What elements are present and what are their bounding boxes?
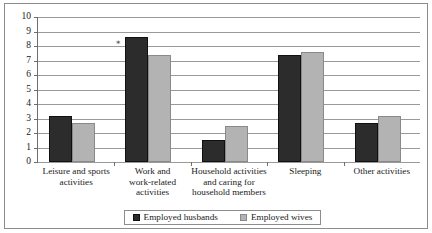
y-tick-label: 8	[26, 41, 31, 51]
legend-entry[interactable]: Employed husbands	[133, 213, 218, 222]
bar-wives	[148, 55, 171, 162]
y-tick-label: 7	[26, 56, 31, 66]
chart-figure: 012345678910 ∗ Leisure and sportsactivit…	[0, 0, 432, 233]
y-tick-label: 9	[26, 27, 31, 37]
bars-group	[38, 17, 420, 162]
category-label: Work andwork-relatedactivities	[108, 166, 196, 198]
category-label-line: Leisure and sports	[32, 166, 120, 177]
bar-wives	[225, 126, 248, 162]
bar-husbands	[202, 140, 225, 162]
y-tick-label: 4	[26, 99, 31, 109]
y-tick-mark	[34, 162, 38, 163]
category-label: Sleeping	[261, 166, 349, 177]
category-label-line: work-related	[108, 177, 196, 188]
bar-wives	[301, 52, 324, 162]
legend-entry[interactable]: Employed wives	[240, 213, 313, 222]
legend-label: Employed husbands	[144, 213, 218, 222]
bar-husbands	[278, 55, 301, 162]
category-label: Household activitiesand caring forhouseh…	[185, 166, 273, 198]
gridline	[38, 162, 420, 163]
category-label: Other activities	[338, 166, 426, 177]
category-label: Leisure and sportsactivities	[32, 166, 120, 187]
bar-group	[114, 17, 190, 162]
bar-husbands	[49, 116, 72, 162]
bar-husbands	[355, 123, 378, 162]
y-tick-label: 5	[26, 85, 31, 95]
chart-legend: Employed husbandsEmployed wives	[124, 210, 321, 225]
y-tick-label: 1	[26, 143, 31, 153]
category-label-line: Other activities	[338, 166, 426, 177]
category-label-line: Sleeping	[261, 166, 349, 177]
category-label-line: Work and	[108, 166, 196, 177]
y-tick-label: 6	[26, 70, 31, 80]
y-tick-label: 2	[26, 128, 31, 138]
legend-label: Employed wives	[251, 213, 313, 222]
bar-group	[344, 17, 420, 162]
bar-wives	[378, 116, 401, 162]
category-label-line: activities	[32, 177, 120, 188]
bar-wives	[72, 123, 95, 162]
bar-group	[38, 17, 114, 162]
category-label-line: activities	[108, 187, 196, 198]
y-tick-label: 0	[26, 157, 31, 167]
category-label-line: household members	[185, 187, 273, 198]
dark-square-icon	[133, 214, 140, 221]
bar-husbands	[125, 37, 148, 162]
category-labels-group: Leisure and sportsactivitiesWork andwork…	[38, 166, 420, 208]
chart-frame: 012345678910 ∗ Leisure and sportsactivit…	[4, 3, 428, 229]
significance-asterisk-marker: ∗	[115, 40, 120, 46]
category-label-line: Household activities	[185, 166, 273, 177]
category-label-line: and caring for	[185, 177, 273, 188]
plot-area: 012345678910 ∗	[38, 17, 420, 162]
light-square-icon	[240, 214, 247, 221]
y-tick-label: 3	[26, 114, 31, 124]
bar-group	[191, 17, 267, 162]
bar-group	[267, 17, 343, 162]
y-tick-label: 10	[22, 12, 32, 22]
